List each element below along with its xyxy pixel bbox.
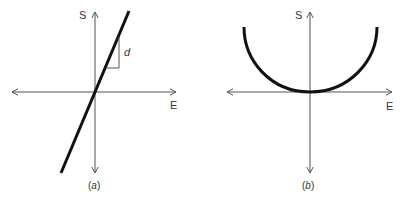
panel-b: S E (b) xyxy=(227,9,393,191)
x-axis-label-a: E xyxy=(170,99,177,111)
y-axis-label-a: S xyxy=(79,9,86,21)
x-axis-label-b: E xyxy=(386,100,393,112)
slope-annotation-d: d xyxy=(124,46,131,58)
caption-b: (b) xyxy=(302,180,314,191)
panel-a: S E d (a) xyxy=(12,9,177,191)
figure-canvas: S E d (a) S E (b) xyxy=(0,0,406,203)
y-axis-label-b: S xyxy=(295,9,302,21)
caption-a: (a) xyxy=(88,180,100,191)
